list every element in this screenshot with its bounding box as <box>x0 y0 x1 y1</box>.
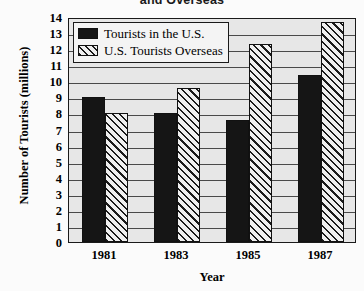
legend-swatch-icon-1 <box>78 28 98 39</box>
y-tick-10: 10 <box>36 76 62 89</box>
y-tick-8: 8 <box>36 108 62 121</box>
bar-1985-series-2 <box>249 44 272 242</box>
x-tick-1985: 1985 <box>236 249 261 262</box>
y-tick-5: 5 <box>36 156 62 169</box>
y-tick-7: 7 <box>36 124 62 137</box>
x-axis-label: Year <box>68 270 356 285</box>
bar-1981-series-1 <box>82 97 105 242</box>
x-axis-tick-labels: 1981198319851987 <box>68 249 356 267</box>
bar-1981-series-2 <box>105 113 128 242</box>
y-tick-6: 6 <box>36 140 62 153</box>
y-axis-tick-labels: 01234567891011121314 <box>36 18 62 243</box>
bar-chart-figure: and Overseas Number of Tourists (million… <box>0 0 364 291</box>
y-tick-0: 0 <box>36 237 62 250</box>
legend-label-2: U.S. Tourists Overseas <box>104 44 223 57</box>
legend-item-2: U.S. Tourists Overseas <box>78 42 223 59</box>
y-tick-3: 3 <box>36 189 62 202</box>
chart-title: and Overseas <box>0 0 364 7</box>
y-axis-label: Number of Tourists (millions) <box>17 16 32 236</box>
y-tick-11: 11 <box>36 60 62 73</box>
x-tick-1987: 1987 <box>308 249 333 262</box>
y-tick-12: 12 <box>36 44 62 57</box>
y-tick-1: 1 <box>36 221 62 234</box>
y-tick-4: 4 <box>36 172 62 185</box>
legend-label-1: Tourists in the U.S. <box>104 27 205 40</box>
bar-1987-series-2 <box>321 22 344 242</box>
x-tick-1983: 1983 <box>164 249 189 262</box>
plot-area: Tourists in the U.S.U.S. Tourists Overse… <box>68 18 356 243</box>
legend-item-1: Tourists in the U.S. <box>78 25 223 42</box>
chart-legend: Tourists in the U.S.U.S. Tourists Overse… <box>73 22 229 63</box>
x-tick-1981: 1981 <box>92 249 117 262</box>
y-tick-9: 9 <box>36 92 62 105</box>
bar-1983-series-1 <box>154 113 177 242</box>
legend-swatch-icon-2 <box>78 45 98 56</box>
y-tick-2: 2 <box>36 205 62 218</box>
bar-1985-series-1 <box>226 120 249 242</box>
bar-1987-series-1 <box>298 75 321 242</box>
y-tick-14: 14 <box>36 12 62 25</box>
bar-1983-series-2 <box>177 88 200 242</box>
y-tick-13: 13 <box>36 28 62 41</box>
